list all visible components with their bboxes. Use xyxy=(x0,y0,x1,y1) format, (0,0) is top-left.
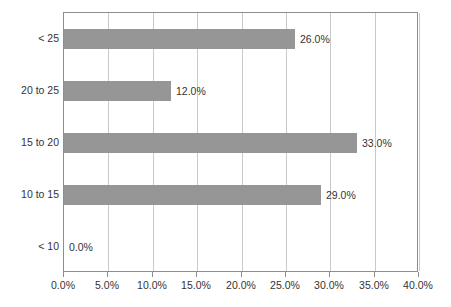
bar-chart: 0.0%29.0%33.0%12.0%26.0% < 1010 to 1515 … xyxy=(0,0,451,307)
bar-value-label: 12.0% xyxy=(171,81,206,101)
bar-row: 12.0% xyxy=(64,65,417,117)
x-tick-label: 25.0% xyxy=(270,279,300,291)
category-label: < 10 xyxy=(38,236,59,256)
gridline xyxy=(419,13,420,271)
x-tick-mark xyxy=(241,272,242,277)
x-tick-mark xyxy=(107,272,108,277)
bar xyxy=(64,133,357,153)
x-tick-mark xyxy=(285,272,286,277)
x-tick-label: 5.0% xyxy=(95,279,119,291)
bar xyxy=(64,29,295,49)
x-tick-label: 10.0% xyxy=(137,279,167,291)
category-label: 20 to 25 xyxy=(21,80,59,100)
x-tick-label: 30.0% xyxy=(314,279,344,291)
x-tick-mark xyxy=(329,272,330,277)
category-label: 15 to 20 xyxy=(21,132,59,152)
category-label: < 25 xyxy=(38,28,59,48)
plot-area: 0.0%29.0%33.0%12.0%26.0% xyxy=(63,12,418,272)
x-tick-label: 40.0% xyxy=(403,279,433,291)
bar-value-label: 26.0% xyxy=(295,29,330,49)
x-tick-label: 15.0% xyxy=(181,279,211,291)
x-tick-mark xyxy=(196,272,197,277)
bar-row: 33.0% xyxy=(64,117,417,169)
bar-value-label: 33.0% xyxy=(357,133,392,153)
x-tick-mark xyxy=(152,272,153,277)
x-tick-mark xyxy=(418,272,419,277)
x-tick-mark xyxy=(374,272,375,277)
bar-row: 26.0% xyxy=(64,13,417,65)
x-tick-label: 20.0% xyxy=(226,279,256,291)
bar-row: 29.0% xyxy=(64,169,417,221)
bar-value-label: 0.0% xyxy=(64,237,93,257)
category-label: 10 to 15 xyxy=(21,184,59,204)
x-tick-label: 35.0% xyxy=(359,279,389,291)
x-tick-label: 0.0% xyxy=(51,279,75,291)
bar xyxy=(64,185,321,205)
bar xyxy=(64,81,171,101)
bar-row: 0.0% xyxy=(64,221,417,273)
bar-value-label: 29.0% xyxy=(321,185,356,205)
x-tick-mark xyxy=(63,272,64,277)
